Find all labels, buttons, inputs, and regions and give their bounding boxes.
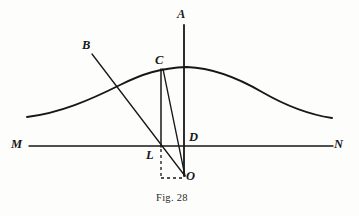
figure-28-diagram: A B C D L M N O Fig. 28 — [0, 0, 359, 216]
label-point-n: N — [334, 138, 343, 151]
label-point-l: L — [146, 149, 154, 162]
segment-co — [163, 69, 185, 176]
figure-drawing-canvas — [0, 0, 359, 216]
curve-path — [27, 67, 332, 118]
figure-caption: Fig. 28 — [156, 192, 188, 203]
segment-bo — [92, 54, 185, 176]
label-point-m: M — [11, 138, 22, 151]
label-point-c: C — [155, 54, 163, 67]
label-point-b: B — [82, 39, 90, 52]
label-point-d: D — [189, 131, 198, 144]
label-point-a: A — [177, 8, 185, 21]
label-point-o: O — [186, 170, 195, 183]
